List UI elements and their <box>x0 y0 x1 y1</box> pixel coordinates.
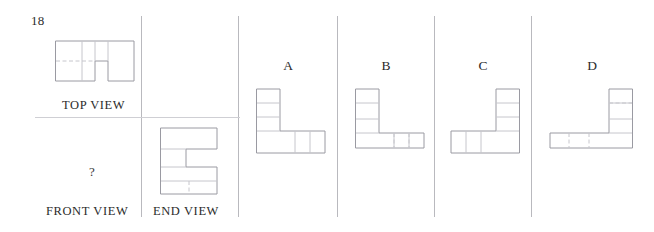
front-view-label: FRONT VIEW <box>46 205 128 218</box>
option-c-letter: C <box>473 59 493 73</box>
divider-horizontal <box>35 117 240 118</box>
top-view-label: TOP VIEW <box>62 99 125 112</box>
worksheet-canvas: 18 TOP VIEW ? FRONT VIEW END <box>0 0 654 232</box>
option-a-figure[interactable] <box>256 88 326 154</box>
end-view-figure <box>160 127 218 195</box>
divider-option-b-c <box>434 16 435 217</box>
end-view-label: END VIEW <box>153 205 219 218</box>
option-b-figure[interactable] <box>355 88 425 154</box>
option-d-figure[interactable] <box>549 88 633 154</box>
option-d-letter: D <box>582 59 602 73</box>
option-c-figure[interactable] <box>450 88 520 154</box>
front-view-question-mark: ? <box>89 165 95 178</box>
divider-option-a-b <box>337 16 338 217</box>
top-view-figure <box>55 40 135 82</box>
divider-option-c-d <box>531 16 532 217</box>
option-a-letter: A <box>278 59 298 73</box>
option-b-letter: B <box>376 59 396 73</box>
question-number: 18 <box>31 14 45 27</box>
